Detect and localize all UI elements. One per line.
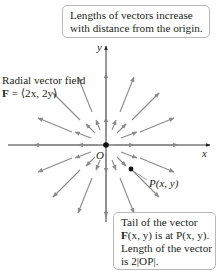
axes bbox=[8, 46, 210, 222]
bottom-callout-line2-rest: (x, y) is at P(x, y). bbox=[128, 229, 209, 241]
top-callout: Lengths of vectors increase with distanc… bbox=[62, 5, 210, 38]
bottom-callout-line2: F(x, y) is at P(x, y). bbox=[121, 229, 213, 242]
field-label: Radial vector field F = ⟨2x, 2y⟩ bbox=[2, 74, 85, 100]
origin-label: O bbox=[96, 149, 104, 161]
field-title: Radial vector field bbox=[2, 74, 85, 87]
bottom-callout-line3: Length of the vector bbox=[121, 242, 213, 255]
point-p bbox=[129, 167, 134, 172]
top-callout-line2: with distance from the origin. bbox=[70, 22, 205, 35]
y-axis-label: y bbox=[97, 41, 102, 53]
origin-point bbox=[103, 142, 109, 148]
bottom-callout-symbol: F bbox=[121, 229, 128, 241]
bottom-callout-line1: Tail of the vector bbox=[121, 216, 213, 229]
bottom-callout: Tail of the vector F(x, y) is at P(x, y)… bbox=[113, 212, 216, 270]
x-axis-label: x bbox=[202, 147, 207, 159]
top-callout-line1: Lengths of vectors increase bbox=[70, 9, 205, 22]
field-symbol: F bbox=[2, 87, 9, 99]
field-definition: F = ⟨2x, 2y⟩ bbox=[2, 87, 85, 100]
field-formula: = ⟨2x, 2y⟩ bbox=[9, 87, 58, 99]
bottom-callout-line4: is 2|OP|. bbox=[121, 255, 213, 268]
point-p-label: P(x, y) bbox=[149, 177, 178, 189]
